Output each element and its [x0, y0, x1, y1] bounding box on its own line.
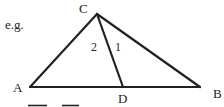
- angle-label-1: 1: [115, 41, 121, 53]
- vertex-label-d: D: [118, 92, 127, 105]
- segment-cb: [97, 14, 200, 87]
- angle-label-2: 2: [91, 41, 97, 53]
- vertex-label-b: B: [213, 87, 222, 100]
- example-prefix: e.g.: [5, 18, 24, 31]
- segment-ca: [30, 14, 97, 87]
- vertex-label-a: A: [13, 81, 22, 94]
- triangle-diagram: [0, 0, 224, 107]
- vertex-label-c: C: [79, 2, 88, 15]
